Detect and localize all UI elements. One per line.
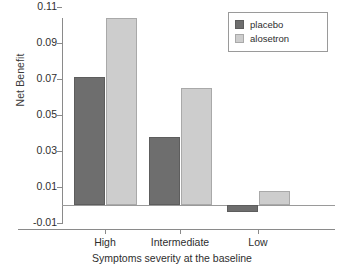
- chart-figure: Net Benefit -0.010.010.030.050.070.090.1…: [0, 0, 344, 270]
- bar-intermediate-placebo: [149, 137, 180, 205]
- legend-label-alosetron: alosetron: [250, 33, 289, 44]
- x-tick-label: Low: [248, 236, 267, 248]
- legend: placebo alosetron: [228, 12, 328, 52]
- x-tick-mark: [180, 229, 181, 234]
- x-axis-title: Symptoms severity at the baseline: [0, 252, 344, 264]
- bar-low-placebo: [227, 205, 258, 212]
- legend-label-placebo: placebo: [250, 19, 283, 30]
- legend-swatch-alosetron-icon: [235, 34, 244, 43]
- legend-swatch-placebo-icon: [235, 20, 244, 29]
- legend-item-alosetron: alosetron: [235, 32, 321, 45]
- legend-item-placebo: placebo: [235, 18, 321, 31]
- bar-low-alosetron: [259, 191, 290, 205]
- x-tick-mark: [258, 229, 259, 234]
- bar-high-placebo: [74, 77, 105, 205]
- x-tick-label: Intermediate: [151, 236, 209, 248]
- x-tick-mark: [105, 229, 106, 234]
- bar-intermediate-alosetron: [181, 88, 212, 205]
- bar-high-alosetron: [106, 18, 137, 205]
- x-tick-label: High: [94, 236, 116, 248]
